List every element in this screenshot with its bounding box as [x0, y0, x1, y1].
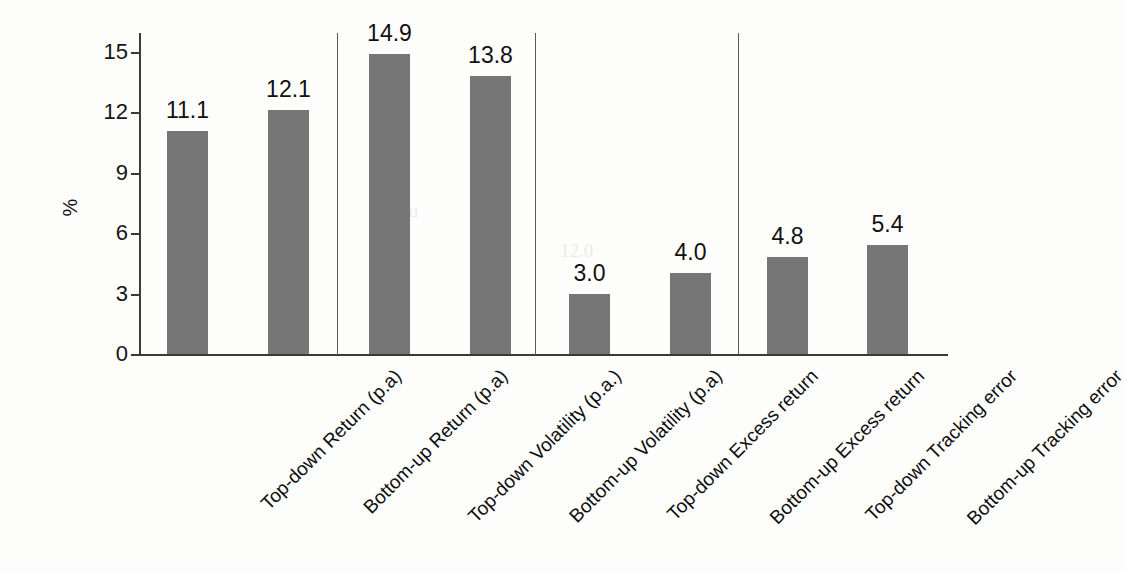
- bar: [670, 273, 711, 354]
- y-tick-label-12: 12: [88, 101, 128, 123]
- bar: [268, 110, 309, 354]
- y-tick-label-9: 9: [88, 162, 128, 184]
- group-separator-3: [738, 33, 739, 355]
- y-tick-label-3: 3: [88, 283, 128, 305]
- bar: [767, 257, 808, 354]
- bar-value-label: 11.1: [143, 99, 233, 122]
- group-separator-2: [535, 33, 536, 355]
- bar-value-label: 13.8: [446, 44, 536, 67]
- bar-value-label: 5.4: [843, 213, 933, 236]
- bar-value-label: 12.1: [244, 78, 334, 101]
- y-axis-line: [139, 33, 141, 355]
- bar-value-label: 14.9: [345, 22, 435, 45]
- y-tick-label-0: 0: [88, 343, 128, 365]
- group-separator-1: [337, 33, 338, 355]
- y-tick-label-15: 15: [88, 41, 128, 63]
- bar: [167, 131, 208, 354]
- bar: [470, 76, 511, 354]
- bar: [369, 54, 410, 354]
- x-axis-line: [139, 354, 948, 356]
- bar-value-label: 4.0: [646, 241, 736, 264]
- bar: [569, 294, 610, 354]
- bar-value-label: 4.8: [743, 225, 833, 248]
- bar: [867, 245, 908, 354]
- y-tick-label-6: 6: [88, 222, 128, 244]
- bar-value-label: 3.0: [545, 262, 635, 285]
- scan-artifact: 12.0: [560, 240, 593, 262]
- y-axis-label: %: [59, 199, 82, 217]
